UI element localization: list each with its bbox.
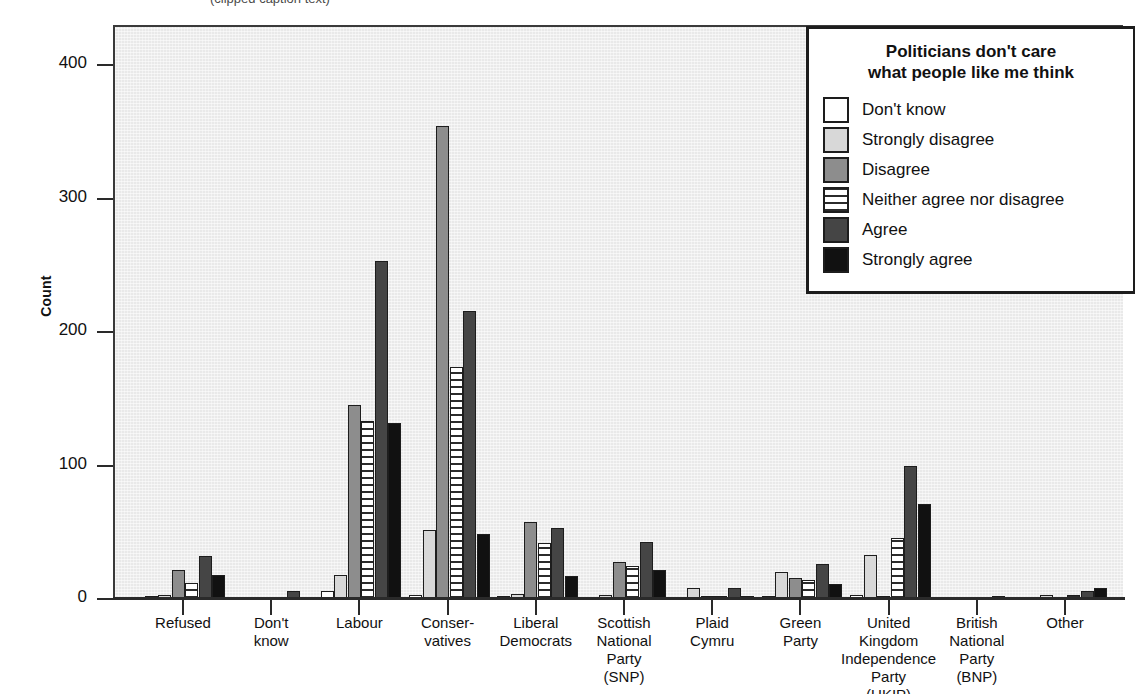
legend-item-label: Neither agree nor disagree xyxy=(862,190,1064,210)
legend-swatch-icon xyxy=(823,127,849,153)
x-axis-tick-mark xyxy=(711,600,713,615)
bar xyxy=(348,405,361,599)
y-axis-tick-mark xyxy=(97,598,113,600)
x-axis-tick-mark xyxy=(976,600,978,615)
legend-swatch-icon xyxy=(823,97,849,123)
legend-item: Neither agree nor disagree xyxy=(823,187,1119,213)
legend-swatch-icon xyxy=(823,217,849,243)
bar xyxy=(640,542,653,599)
legend: Politicians don't care what people like … xyxy=(806,26,1135,294)
bar xyxy=(172,570,185,599)
chart-page: (clipped caption text) Count 01002003004… xyxy=(0,0,1135,694)
bar xyxy=(613,562,626,599)
x-axis-tick-mark xyxy=(358,600,360,615)
x-axis-tick-mark xyxy=(623,600,625,615)
x-axis-tick-mark xyxy=(447,600,449,615)
legend-swatch-icon xyxy=(823,187,849,213)
bar xyxy=(904,466,917,599)
x-axis-tick-mark xyxy=(270,600,272,615)
y-axis-label: Count xyxy=(38,256,54,336)
legend-item-label: Disagree xyxy=(862,160,930,180)
bar xyxy=(463,311,476,599)
bar xyxy=(626,566,639,599)
legend-title: Politicians don't care what people like … xyxy=(823,41,1119,83)
x-axis-tick-mark xyxy=(535,600,537,615)
bar xyxy=(212,575,225,599)
bar xyxy=(334,575,347,599)
bar xyxy=(551,528,564,599)
bar xyxy=(199,556,212,599)
bar xyxy=(775,572,788,599)
bar xyxy=(565,576,578,599)
legend-items: Don't knowStrongly disagreeDisagreeNeith… xyxy=(823,97,1119,273)
y-axis-tick-mark xyxy=(97,331,113,333)
y-axis-tick-label: 100 xyxy=(59,454,87,474)
y-axis-tick-label: 0 xyxy=(78,587,87,607)
legend-item-label: Don't know xyxy=(862,100,946,120)
legend-item: Agree xyxy=(823,217,1119,243)
x-axis-tick-mark xyxy=(1064,600,1066,615)
y-axis-tick-mark xyxy=(97,465,113,467)
legend-swatch-icon xyxy=(823,157,849,183)
legend-item-label: Strongly agree xyxy=(862,250,973,270)
legend-swatch-icon xyxy=(823,247,849,273)
x-axis-category-label: Other xyxy=(1005,614,1125,632)
bar xyxy=(524,522,537,599)
legend-item: Strongly disagree xyxy=(823,127,1119,153)
bar xyxy=(477,534,490,599)
bar xyxy=(918,504,931,599)
legend-item: Don't know xyxy=(823,97,1119,123)
bar xyxy=(653,570,666,599)
x-axis-tick-mark xyxy=(182,600,184,615)
bar xyxy=(538,543,551,599)
legend-item-label: Agree xyxy=(862,220,907,240)
bar xyxy=(891,538,904,599)
y-axis-tick-label: 300 xyxy=(59,187,87,207)
bar xyxy=(789,578,802,599)
legend-item: Disagree xyxy=(823,157,1119,183)
y-axis-tick-mark xyxy=(97,198,113,200)
bar xyxy=(375,261,388,599)
legend-item: Strongly agree xyxy=(823,247,1119,273)
bar xyxy=(816,564,829,599)
x-axis-tick-mark xyxy=(799,600,801,615)
legend-item-label: Strongly disagree xyxy=(862,130,994,150)
bar xyxy=(864,555,877,599)
y-axis-tick-label: 400 xyxy=(59,53,87,73)
clipped-caption-text: (clipped caption text) xyxy=(210,0,330,6)
y-axis-tick-mark xyxy=(97,64,113,66)
bar xyxy=(388,423,401,599)
bar xyxy=(436,126,449,599)
clipped-top-caption: (clipped caption text) xyxy=(0,0,1135,12)
bar xyxy=(361,421,374,599)
y-axis-tick-label: 200 xyxy=(59,320,87,340)
x-axis-tick-mark xyxy=(888,600,890,615)
x-axis-baseline xyxy=(113,597,1125,600)
bar xyxy=(450,367,463,599)
bar xyxy=(423,530,436,599)
